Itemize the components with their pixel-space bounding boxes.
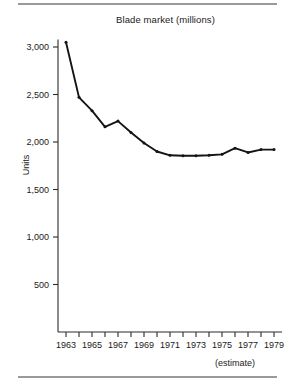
x-tick-label: 1979 bbox=[264, 340, 284, 350]
series-data-point bbox=[156, 150, 159, 153]
x-tick-label: 1977 bbox=[238, 340, 258, 350]
x-tick-label: 1973 bbox=[186, 340, 206, 350]
series-data-point bbox=[143, 141, 146, 144]
series-data-point bbox=[117, 120, 120, 123]
series-data-point bbox=[221, 153, 224, 156]
series-data-point bbox=[182, 154, 185, 157]
series-data-point bbox=[91, 109, 94, 112]
blade-market-series-line bbox=[66, 42, 274, 156]
series-group bbox=[65, 41, 276, 158]
series-data-point bbox=[104, 125, 107, 128]
x-tick-label: 1969 bbox=[134, 340, 154, 350]
figure-container: Blade market (millions) Units 5001,0001,… bbox=[0, 0, 295, 388]
x-tick-labels-group: 196319651967196919711973197519771979 bbox=[56, 340, 284, 350]
series-data-point bbox=[247, 151, 250, 154]
y-tick-labels-group: 5001,0001,5002,0002,5003,000 bbox=[26, 42, 49, 289]
x-tick-label: 1967 bbox=[108, 340, 128, 350]
series-data-point bbox=[130, 131, 133, 134]
x-tick-label: 1971 bbox=[160, 340, 180, 350]
y-tick-label: 2,500 bbox=[26, 90, 49, 100]
series-data-point bbox=[78, 96, 81, 99]
series-data-point bbox=[65, 41, 68, 44]
series-data-point bbox=[260, 148, 263, 151]
estimate-annotation: (estimate) bbox=[185, 358, 285, 368]
axes-group bbox=[53, 40, 282, 338]
series-data-point bbox=[169, 154, 172, 157]
y-tick-label: 500 bbox=[34, 280, 49, 290]
series-data-point bbox=[195, 154, 198, 157]
series-data-point bbox=[234, 147, 237, 150]
x-tick-label: 1965 bbox=[82, 340, 102, 350]
y-tick-label: 1,500 bbox=[26, 185, 49, 195]
y-tick-label: 2,000 bbox=[26, 137, 49, 147]
x-tick-label: 1975 bbox=[212, 340, 232, 350]
x-tick-label: 1963 bbox=[56, 340, 76, 350]
series-data-point bbox=[273, 148, 276, 151]
line-chart-plot: 5001,0001,5002,0002,5003,000 19631965196… bbox=[0, 0, 295, 388]
y-tick-label: 3,000 bbox=[26, 42, 49, 52]
series-data-point bbox=[208, 154, 211, 157]
y-tick-label: 1,000 bbox=[26, 232, 49, 242]
